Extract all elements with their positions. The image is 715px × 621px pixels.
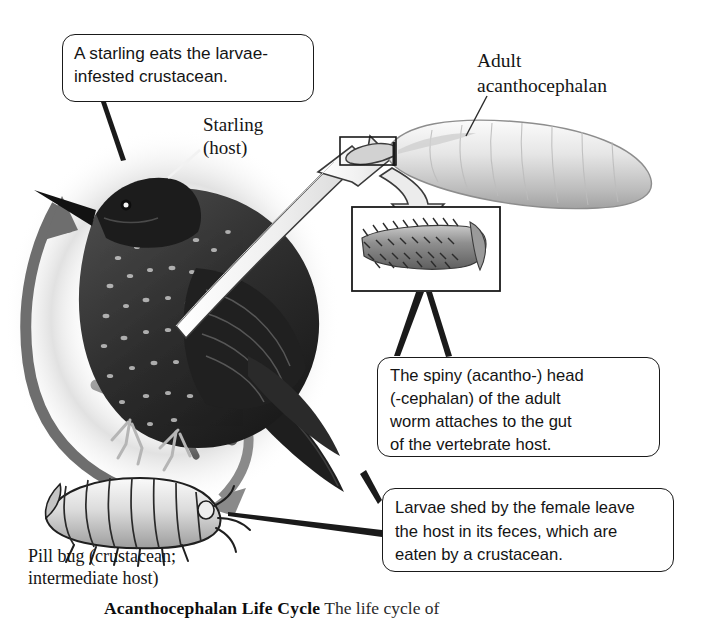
figure-canvas: A starling eats the larvae- infested cru… [0, 0, 715, 621]
callout-starling-eats: A starling eats the larvae- infested cru… [62, 34, 314, 102]
callout-spiny-head-text: The spiny (acantho-) head (-cephalan) of… [390, 364, 647, 456]
label-starling-host: Starling (host) [203, 113, 263, 159]
callout-starling-eats-text: A starling eats the larvae- infested cru… [74, 42, 302, 87]
callout-larvae-shed-text: Larvae shed by the female leave the host… [395, 496, 661, 567]
connector-inset-to-spiny-callout [394, 292, 452, 357]
callout-larvae-shed: Larvae shed by the female leave the host… [382, 488, 674, 572]
callout-spiny-head: The spiny (acantho-) head (-cephalan) of… [377, 357, 660, 457]
figure-caption-body: The life cycle of [320, 600, 439, 618]
adult-worm-illustration [340, 120, 651, 209]
figure-caption: Acanthocephalan Life Cycle The life cycl… [0, 600, 715, 621]
proboscis-inset [352, 207, 500, 291]
figure-caption-title: Acanthocephalan Life Cycle [104, 600, 320, 618]
label-pill-bug: Pill bug (crustacean; intermediate host) [28, 545, 176, 589]
label-adult-acanthocephalan: Adult acanthocephalan [477, 48, 607, 98]
